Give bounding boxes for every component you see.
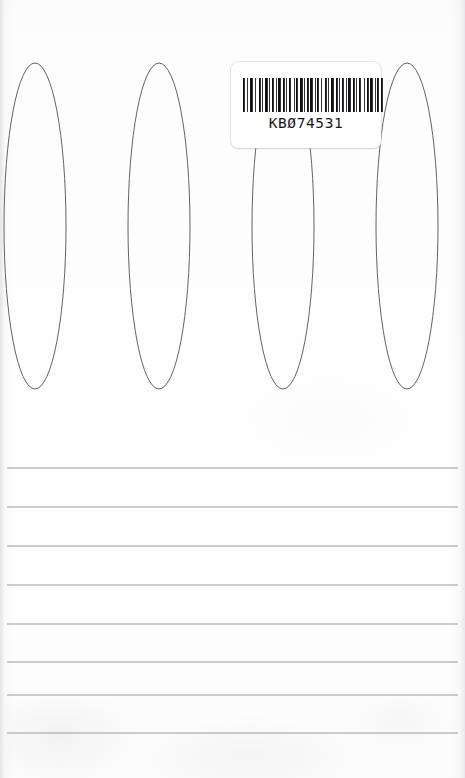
barcode-char-zero-slashed: Ø [287,115,296,131]
barcode-bar [317,78,319,112]
barcode-bar [342,78,344,112]
barcode-bar [321,78,322,112]
barcode-bar [247,78,248,112]
barcode-bar [243,78,245,112]
barcode-bar [359,78,361,112]
barcode-bar [377,78,379,112]
barcode-bar [353,78,355,112]
barcode-bar [346,78,347,112]
barcode-bar [278,78,281,112]
barcode-bars [243,78,383,112]
barcode-bar [364,78,365,112]
barcode-bar [294,78,295,112]
barcode-bar [289,78,291,112]
barcode-bar [296,78,298,112]
barcode-bar [375,78,376,112]
barcode-bar [269,78,270,112]
barcode-bar [300,78,303,112]
barcode-bar [286,78,287,112]
barcode-bar [336,78,338,112]
barcode-bar [310,78,313,112]
barcode-bar [283,78,285,112]
barcode-bar [276,78,277,112]
barcode-bar [262,78,263,112]
barcode-bar [370,78,373,112]
barcode-bar [348,78,351,112]
barcode-bar [367,78,369,112]
barcode-bar [265,78,268,112]
barcode-bar [272,78,274,112]
barcode-bar [331,78,334,112]
barcode-bar [304,78,305,112]
barcode-bar [315,78,316,112]
barcode-bar [259,78,261,112]
barcode-bar [325,78,327,112]
barcode-bar [328,78,329,112]
barcode-sticker[interactable]: KBØ74531 [231,62,381,148]
barcode-bar [381,78,383,112]
barcode-bar [339,78,340,112]
barcode-code-text: KBØ74531 [231,116,381,131]
barcode-bar [307,78,309,112]
barcode-bar [255,78,256,112]
barcode-bar [250,78,253,112]
scanned-notebook-page: KBØ74531 [0,0,465,778]
barcode-bar [356,78,357,112]
